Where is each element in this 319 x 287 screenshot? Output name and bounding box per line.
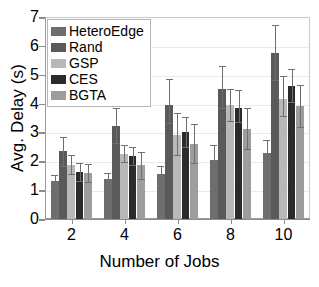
x-tick-label: 8 (211, 226, 251, 244)
error-bar (247, 108, 248, 150)
error-bar-cap (121, 162, 128, 163)
error-bar-cap (210, 174, 217, 175)
x-tick-label: 2 (52, 226, 92, 244)
x-tick-mark (178, 219, 180, 224)
error-bar-cap (60, 166, 67, 167)
error-bar-cap (60, 137, 67, 138)
error-bar (71, 155, 72, 174)
error-bar-cap (219, 108, 226, 109)
error-bar-cap (297, 127, 304, 128)
error-bar (275, 25, 276, 80)
chart-figure: Avg. Delay (s) Number of Jobs HeteroEdge… (0, 0, 319, 287)
y-tick-mark (39, 17, 45, 19)
error-bar (300, 85, 301, 127)
y-tick-mark (39, 190, 45, 192)
error-bar (141, 152, 142, 179)
y-tick-mark (39, 46, 45, 48)
bar-group (210, 17, 251, 219)
y-tick-mark (39, 75, 45, 77)
error-bar-cap (85, 182, 92, 183)
error-bar (161, 166, 162, 183)
bar-group (157, 17, 198, 219)
error-bar-cap (297, 85, 304, 86)
error-bar-cap (85, 164, 92, 165)
error-bar-cap (288, 102, 295, 103)
x-axis-label: Number of Jobs (0, 252, 319, 272)
error-bar-cap (191, 124, 198, 125)
error-bar-cap (113, 108, 120, 109)
bar (288, 86, 296, 219)
y-tick-label: 1 (17, 182, 39, 198)
error-bar-cap (210, 145, 217, 146)
error-bar (80, 163, 81, 180)
x-tick-mark (125, 219, 127, 224)
error-bar-cap (288, 69, 295, 70)
error-bar-cap (166, 79, 173, 80)
x-tick-label: 4 (105, 226, 145, 244)
y-tick-label: 0 (17, 211, 39, 227)
error-bar-cap (138, 179, 145, 180)
bar (120, 154, 128, 219)
error-bar (88, 164, 89, 181)
error-bar (186, 117, 187, 147)
y-tick-label: 2 (17, 153, 39, 169)
error-bar-cap (51, 187, 58, 188)
error-bar-cap (129, 147, 136, 148)
error-bar-cap (129, 165, 136, 166)
error-bar-cap (138, 152, 145, 153)
x-tick-label: 6 (158, 226, 198, 244)
error-bar (63, 137, 64, 166)
error-bar-cap (76, 181, 83, 182)
y-tick-label: 5 (17, 67, 39, 83)
x-tick-mark (231, 219, 233, 224)
y-tick-mark (39, 104, 45, 106)
y-tick-label: 3 (17, 124, 39, 140)
error-bar-cap (272, 80, 279, 81)
error-bar-cap (263, 140, 270, 141)
error-bar (133, 147, 134, 164)
error-bar (55, 175, 56, 188)
error-bar-cap (235, 122, 242, 123)
error-bar-cap (280, 76, 287, 77)
error-bar (239, 90, 240, 122)
error-bar (214, 145, 215, 174)
error-bar (108, 173, 109, 183)
x-tick-label: 10 (264, 226, 304, 244)
error-bar (292, 69, 293, 102)
error-bar (230, 89, 231, 121)
y-tick-label: 7 (17, 9, 39, 25)
bar-group (263, 17, 304, 219)
error-bar-cap (51, 175, 58, 176)
bar-group (51, 17, 92, 219)
y-tick-mark (39, 219, 45, 221)
error-bar-cap (244, 108, 251, 109)
error-bar-cap (227, 89, 234, 90)
error-bar (194, 124, 195, 163)
error-bar-cap (166, 123, 173, 124)
error-bar (267, 140, 268, 167)
y-tick-mark (39, 161, 45, 163)
x-tick-mark (72, 219, 74, 224)
bar (226, 105, 234, 219)
error-bar (283, 76, 284, 116)
error-bar-cap (219, 66, 226, 67)
error-bar-cap (113, 143, 120, 144)
error-bar (169, 79, 170, 123)
error-bar (124, 145, 125, 162)
error-bar-cap (235, 90, 242, 91)
y-tick-mark (39, 132, 45, 134)
error-bar-cap (68, 174, 75, 175)
bar-group (104, 17, 145, 219)
x-tick-mark (284, 219, 286, 224)
y-tick-label: 6 (17, 38, 39, 54)
error-bar-cap (244, 149, 251, 150)
error-bar-cap (272, 25, 279, 26)
bar (235, 108, 243, 219)
error-bar-cap (263, 167, 270, 168)
error-bar-cap (182, 147, 189, 148)
error-bar-cap (68, 155, 75, 156)
error-bar-cap (227, 121, 234, 122)
error-bar-cap (174, 113, 181, 114)
error-bar-cap (191, 163, 198, 164)
error-bar-cap (157, 166, 164, 167)
